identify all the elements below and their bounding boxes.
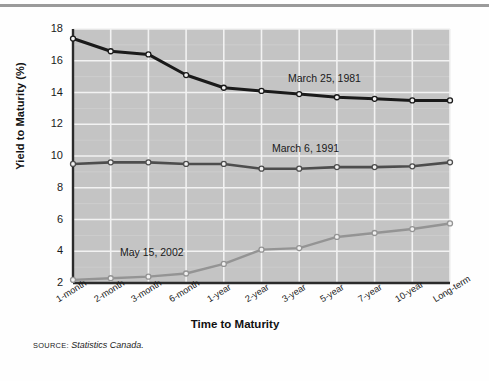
data-point-marker xyxy=(184,73,189,78)
series-label-2: March 6, 1991 xyxy=(272,142,339,154)
data-point-marker xyxy=(259,166,264,171)
figure-container: Yield to Maturity (%) Time to Maturity 2… xyxy=(0,0,489,381)
data-point-marker xyxy=(259,88,264,93)
data-point-marker xyxy=(410,98,415,103)
data-point-marker xyxy=(108,276,113,281)
y-tick-label: 16 xyxy=(41,54,63,66)
data-point-marker xyxy=(410,227,415,232)
data-point-marker xyxy=(372,96,377,101)
y-tick-label: 2 xyxy=(41,276,63,288)
data-point-marker xyxy=(71,161,76,166)
data-point-marker xyxy=(259,247,264,252)
data-point-marker xyxy=(146,52,151,57)
data-point-marker xyxy=(297,92,302,97)
data-point-marker xyxy=(184,271,189,276)
data-point-marker xyxy=(410,164,415,169)
data-point-marker xyxy=(297,246,302,251)
data-point-marker xyxy=(221,85,226,90)
y-tick-label: 14 xyxy=(41,86,63,98)
data-point-marker xyxy=(334,234,339,239)
data-point-marker xyxy=(108,160,113,165)
source-value: Statistics Canada. xyxy=(71,340,144,350)
data-point-marker xyxy=(71,36,76,41)
data-point-marker xyxy=(448,221,453,226)
x-axis-title: Time to Maturity xyxy=(150,318,320,330)
data-point-marker xyxy=(372,230,377,235)
data-point-marker xyxy=(184,161,189,166)
data-point-marker xyxy=(221,261,226,266)
data-point-marker xyxy=(108,49,113,54)
source-note: SOURCE: Statistics Canada. xyxy=(33,340,144,350)
data-point-marker xyxy=(297,166,302,171)
y-tick-label: 10 xyxy=(41,149,63,161)
data-point-marker xyxy=(221,161,226,166)
y-tick-label: 8 xyxy=(41,181,63,193)
data-point-marker xyxy=(448,98,453,103)
line-chart: Yield to Maturity (%) Time to Maturity 2… xyxy=(0,0,489,381)
data-point-marker xyxy=(372,165,377,170)
series-label-3: May 15, 2002 xyxy=(120,246,184,258)
y-tick-label: 18 xyxy=(41,22,63,34)
y-tick-label: 12 xyxy=(41,117,63,129)
data-point-marker xyxy=(334,165,339,170)
data-point-marker xyxy=(334,95,339,100)
source-label: SOURCE: xyxy=(33,341,69,350)
y-tick-label: 4 xyxy=(41,244,63,256)
y-axis-title: Yield to Maturity (%) xyxy=(14,36,26,196)
y-tick-label: 6 xyxy=(41,213,63,225)
data-point-marker xyxy=(448,160,453,165)
data-point-marker xyxy=(146,274,151,279)
series-label-1: March 25, 1981 xyxy=(288,72,361,84)
data-point-marker xyxy=(146,160,151,165)
